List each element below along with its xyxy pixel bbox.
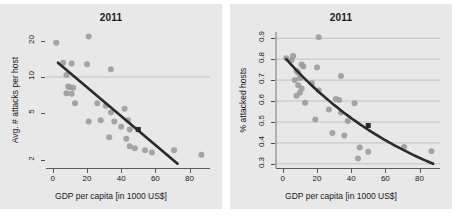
y-tick-label: 20 (27, 31, 36, 49)
figure-container: 2011 Avg. # attacks per host 020406080 2… (0, 0, 461, 217)
panel-right-title: 2011 (230, 12, 452, 23)
y-tick-mark (271, 38, 275, 39)
y-tick-mark (271, 122, 275, 123)
y-tick-label: 10 (27, 66, 36, 84)
panel-left-title: 2011 (0, 12, 222, 23)
panel-left-x-axis-label: GDP per capita [in 1000 US$] (0, 191, 222, 201)
panel-left-plot-area (46, 32, 210, 168)
y-tick-mark (41, 113, 45, 114)
y-tick-label: 0.8 (257, 49, 266, 67)
panel-right: 2011 % attacked hosts 020406080 0.30.40.… (230, 4, 452, 209)
y-tick-label: 0.5 (257, 111, 266, 129)
x-tick-mark (283, 169, 284, 173)
x-tick-label: 80 (185, 174, 194, 183)
x-tick-label: 0 (51, 174, 55, 183)
x-tick-label: 40 (117, 174, 126, 183)
y-tick-mark (41, 77, 45, 78)
y-tick-mark (271, 101, 275, 102)
panel-right-plot-area (276, 32, 440, 168)
x-tick-mark (190, 169, 191, 173)
x-tick-mark (53, 169, 54, 173)
x-tick-label: 60 (381, 174, 390, 183)
x-tick-label: 20 (83, 174, 92, 183)
x-tick-mark (385, 169, 386, 173)
y-tick-mark (41, 41, 45, 42)
panel-left: 2011 Avg. # attacks per host 020406080 2… (0, 4, 222, 209)
panel-right-x-axis-label: GDP per capita [in 1000 US$] (230, 191, 452, 201)
y-tick-label: 0.6 (257, 91, 266, 109)
y-tick-label: 0.7 (257, 70, 266, 88)
panel-left-x-axis-line (46, 168, 210, 169)
x-tick-mark (87, 169, 88, 173)
y-tick-label: 0.4 (257, 132, 266, 150)
panel-left-svg (46, 32, 210, 168)
x-tick-label: 60 (151, 174, 160, 183)
y-tick-label: 5 (27, 102, 36, 120)
y-tick-label: 0.3 (257, 153, 266, 171)
y-tick-mark (271, 164, 275, 165)
y-tick-mark (271, 59, 275, 60)
x-tick-label: 0 (281, 174, 285, 183)
x-tick-mark (121, 169, 122, 173)
panel-right-x-axis-line (276, 168, 440, 169)
x-tick-label: 20 (313, 174, 322, 183)
panel-left-y-axis-label: Avg. # attacks per host (10, 32, 24, 168)
y-tick-mark (41, 160, 45, 161)
y-tick-mark (271, 80, 275, 81)
panel-right-svg (276, 32, 440, 168)
x-tick-label: 80 (415, 174, 424, 183)
y-tick-mark (271, 143, 275, 144)
x-tick-mark (317, 169, 318, 173)
x-tick-label: 40 (347, 174, 356, 183)
x-tick-mark (351, 169, 352, 173)
panel-right-y-axis-label: % attacked hosts (238, 32, 252, 168)
y-tick-label: 2 (27, 149, 36, 167)
x-tick-mark (420, 169, 421, 173)
y-tick-label: 0.9 (257, 28, 266, 46)
x-tick-mark (155, 169, 156, 173)
